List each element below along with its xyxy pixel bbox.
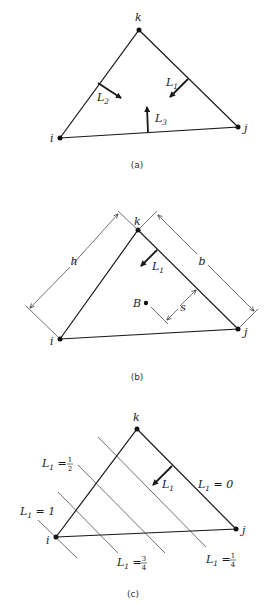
b-label: b — [198, 255, 205, 268]
vertex-label-i-b: i — [50, 335, 54, 348]
node-i-b — [58, 337, 63, 342]
caption-a: (a) — [131, 160, 144, 170]
vertex-label-i-c: i — [46, 534, 50, 547]
h-extension-bottom — [26, 306, 58, 337]
contour-line-one — [38, 520, 77, 558]
vertex-label-k: k — [135, 11, 142, 24]
contour-label-half: L1 = 1 2 — [41, 456, 73, 473]
b-dimension-line-upper — [158, 215, 197, 254]
contour-label-zero: L1 = 0 — [197, 478, 233, 493]
svg-text:L1 =: L1 = — [41, 457, 67, 472]
svg-text:4: 4 — [231, 561, 236, 569]
node-j-c — [234, 527, 239, 532]
panel-a: i j k L1 L2 L3 (a) — [50, 11, 248, 170]
vertex-label-i: i — [50, 132, 54, 145]
caption-b: (b) — [131, 372, 144, 382]
svg-text:L1 =: L1 = — [205, 553, 231, 568]
s-extension — [151, 307, 168, 324]
arrow-label-l2-a: L2 — [96, 91, 109, 106]
vertex-label-k-b: k — [134, 215, 141, 228]
vertex-label-j-b: j — [241, 326, 248, 339]
triangle-area-coordinates-figure: i j k L1 L2 L3 (a) i j k h b L1 — [0, 0, 278, 606]
svg-text:1: 1 — [68, 456, 72, 464]
b-dimension-line-lower — [208, 265, 254, 311]
h-dimension-line-lower — [30, 267, 70, 308]
svg-text:L1 =: L1 = — [116, 556, 142, 571]
node-j-a — [236, 125, 241, 130]
triangle-a — [60, 30, 238, 138]
arrow-l3-a — [147, 107, 148, 133]
vertex-label-j: j — [241, 122, 248, 135]
panel-b: i j k h b L1 B s (b) — [26, 211, 258, 382]
contour-label-one: L1 = 1 — [19, 505, 55, 520]
arrow-label-l1-b: L1 — [151, 260, 164, 275]
arrow-label-l1-c: L1 — [161, 478, 174, 493]
h-dimension-line-upper — [72, 214, 118, 265]
b-extension-top — [138, 211, 157, 230]
arrow-label-l1-a: L1 — [165, 76, 178, 91]
point-b-label: B — [132, 297, 141, 310]
point-b — [144, 301, 148, 305]
svg-text:3: 3 — [142, 555, 146, 563]
s-label: s — [180, 301, 186, 314]
svg-text:1: 1 — [231, 552, 235, 560]
contour-line-quarter — [98, 437, 206, 547]
arrow-label-l3-a: L3 — [154, 112, 167, 127]
node-k-c — [135, 427, 140, 432]
triangle-b — [60, 230, 238, 339]
contour-label-three-quarter: L1 = 3 4 — [116, 555, 147, 572]
svg-text:2: 2 — [68, 465, 72, 473]
vertex-label-j-c: j — [239, 524, 246, 537]
caption-c: (c) — [127, 589, 139, 599]
b-extension-bottom — [240, 309, 258, 327]
node-k-a — [137, 28, 142, 33]
node-i-c — [54, 535, 59, 540]
h-label: h — [70, 255, 77, 268]
node-j-b — [236, 327, 241, 332]
s-dimension-line-lower — [167, 309, 178, 320]
panel-c: i j k L1 L1 = 0 L1 = 1 4 L1 = 1 2 L1 = 3 — [19, 411, 246, 599]
contour-line-half — [78, 465, 165, 553]
vertex-label-k-c: k — [133, 411, 140, 424]
contour-label-quarter: L1 = 1 4 — [205, 552, 236, 569]
node-i-a — [58, 136, 63, 141]
triangle-c — [56, 429, 236, 537]
svg-text:4: 4 — [142, 564, 147, 572]
